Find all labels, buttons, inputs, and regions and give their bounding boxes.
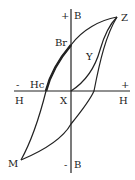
- br-label: Br: [55, 37, 67, 48]
- initial-magnetization-curve: [71, 17, 117, 91]
- plus-b-sign: +: [61, 10, 69, 21]
- hysteresis-diagram: + B Z Br Y - Hc + H X H M - B: [0, 0, 135, 180]
- y-label: Y: [85, 51, 93, 62]
- plus-h-label: H: [119, 95, 128, 106]
- minus-h-label: H: [15, 95, 24, 106]
- minus-h-sign: -: [16, 79, 19, 90]
- m-label: M: [8, 158, 18, 169]
- plus-h-sign: +: [121, 79, 129, 90]
- minus-b-sign: -: [64, 159, 67, 170]
- br-hc-segment: [46, 45, 71, 91]
- hc-label: Hc: [30, 79, 45, 90]
- minus-b-label: B: [74, 159, 81, 170]
- plus-b-label: B: [74, 10, 81, 21]
- z-label: Z: [121, 12, 128, 23]
- origin-x-label: X: [60, 95, 68, 106]
